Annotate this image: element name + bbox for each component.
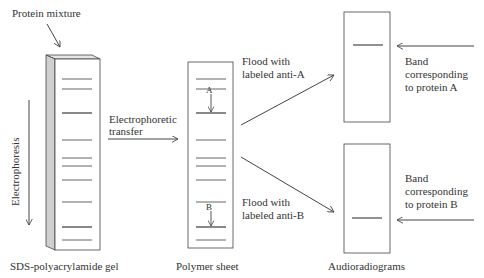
protein-mixture-arrow [47, 24, 60, 47]
marker-a-label: A [206, 84, 213, 97]
flood-b-label-line1: Flood with [242, 196, 290, 209]
band-b-label-line3: to protein B [405, 198, 458, 211]
autoradiogram-b-frame [344, 144, 390, 253]
band-a-label-line3: to protein A [405, 81, 458, 94]
band-b-label-line1: Band [405, 172, 428, 185]
transfer-label-line2: transfer [109, 125, 143, 138]
autoradiogram-b [344, 144, 390, 253]
flood-a-arrow [241, 75, 334, 125]
flood-b-label-line2: labeled anti-B [242, 209, 304, 222]
gel-side-face [46, 55, 55, 250]
gel-caption: SDS-polyacrylamide gel [10, 260, 118, 273]
marker-b-label: B [206, 201, 212, 214]
electrophoresis-label: Electrophoresis [9, 138, 21, 206]
diagram-canvas [0, 0, 484, 278]
band-b-label-line2: corresponding [405, 185, 468, 198]
band-a-label-line1: Band [405, 55, 428, 68]
flood-a-label-line2: labeled anti-A [242, 68, 305, 81]
sheet-caption: Polymer sheet [176, 260, 239, 273]
flood-a-label-line1: Flood with [242, 55, 290, 68]
autoradiogram-a [344, 12, 390, 122]
gel-front-face [55, 59, 100, 250]
sds-gel [46, 55, 100, 250]
autoradiogram-a-frame [344, 12, 390, 122]
autoradiograms-caption: Audioradiograms [328, 260, 405, 273]
band-a-label-line2: corresponding [405, 68, 468, 81]
protein-mixture-label: Protein mixture [12, 7, 81, 20]
